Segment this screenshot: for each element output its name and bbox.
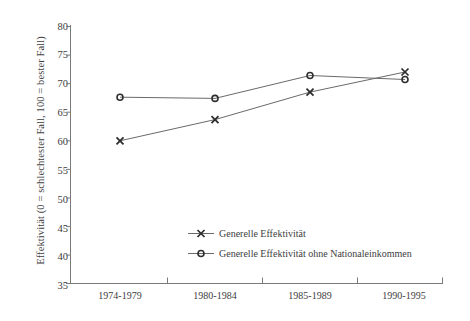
series-markers-generelle-effektivitaet	[117, 69, 409, 145]
data-point	[212, 116, 219, 123]
legend-marker-circle-sample	[188, 251, 214, 257]
data-point	[402, 69, 409, 76]
series-line-generelle-effektivitaet	[120, 72, 405, 141]
series-line-ohne-nationaleinkommen	[120, 76, 405, 99]
data-point	[117, 137, 124, 144]
chart-figure: Effektivität (0 = schlechtester Fall, 10…	[0, 0, 470, 321]
x-axis-ticks	[168, 278, 443, 284]
y-axis-ticks	[66, 27, 71, 284]
data-point	[307, 89, 314, 96]
plot-area	[0, 0, 470, 321]
legend-marker-x-sample	[188, 230, 214, 237]
